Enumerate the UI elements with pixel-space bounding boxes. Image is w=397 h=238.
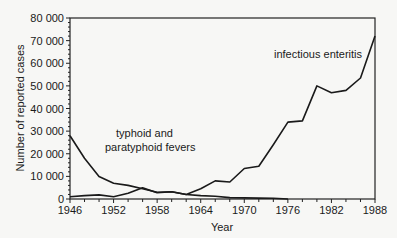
series-lines <box>70 36 375 199</box>
x-tick-label: 1946 <box>58 204 82 216</box>
y-tick-label: 10 000 <box>30 170 64 182</box>
line-chart: 010 00020 00030 00040 00050 00060 00070 … <box>0 0 397 238</box>
y-tick-label: 70 000 <box>30 35 64 47</box>
plot-frame <box>70 18 375 199</box>
x-axis: 19461952195819641970197619821988 <box>58 199 387 216</box>
x-tick-label: 1982 <box>319 204 343 216</box>
annotation-enteritis: infectious enteritis <box>274 48 363 60</box>
plot-border <box>70 18 375 199</box>
x-tick-label: 1952 <box>101 204 125 216</box>
x-tick-label: 1976 <box>276 204 300 216</box>
x-tick-label: 1958 <box>145 204 169 216</box>
enteritis-line <box>70 36 375 197</box>
x-tick-label: 1964 <box>188 204 212 216</box>
y-tick-label: 20 000 <box>30 148 64 160</box>
annotation-typhoid-line1: typhoid and <box>116 127 173 139</box>
annotation-typhoid-line2: paratyphoid fevers <box>105 141 196 153</box>
y-tick-label: 30 000 <box>30 125 64 137</box>
y-axis-title: Number of reported cases <box>14 44 26 172</box>
x-tick-label: 1970 <box>232 204 256 216</box>
y-axis: 010 00020 00030 00040 00050 00060 00070 … <box>30 12 70 205</box>
x-tick-label: 1988 <box>363 204 387 216</box>
y-tick-label: 40 000 <box>30 103 64 115</box>
x-axis-title: Year <box>211 221 234 233</box>
y-tick-label: 60 000 <box>30 57 64 69</box>
y-tick-label: 80 000 <box>30 12 64 24</box>
y-tick-label: 50 000 <box>30 80 64 92</box>
